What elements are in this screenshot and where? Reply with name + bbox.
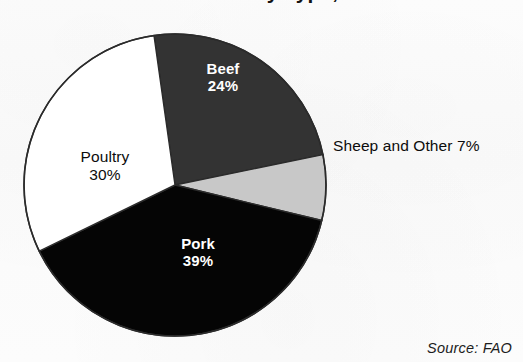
slice-label-sheep-and-other: Sheep and Other 7% xyxy=(333,137,480,155)
slice-label-beef: Beef 24% xyxy=(175,60,271,95)
slice-label-poultry-percent: 30% xyxy=(50,166,160,184)
slice-label-poultry-name: Poultry xyxy=(50,148,160,166)
slice-label-pork-name: Pork xyxy=(150,235,246,252)
slice-label-pork-percent: 39% xyxy=(150,252,246,269)
slice-label-poultry: Poultry 30% xyxy=(50,148,160,184)
slice-label-beef-name: Beef xyxy=(175,60,271,77)
pie-chart-figure: Global Meat Production by Type, 2012 Bee… xyxy=(0,0,523,362)
source-attribution: Source: FAO xyxy=(427,340,512,356)
slice-label-pork: Pork 39% xyxy=(150,235,246,270)
slice-label-beef-percent: 24% xyxy=(175,77,271,94)
